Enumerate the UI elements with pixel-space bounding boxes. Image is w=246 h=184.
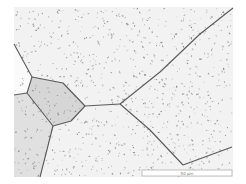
- micrograph-image: 50 µm: [0, 0, 246, 184]
- particle: [110, 111, 112, 112]
- particle: [131, 133, 132, 135]
- scale-bar-label: 50 µm: [181, 171, 194, 176]
- scale-bar: 50 µm: [142, 170, 232, 176]
- particle: [60, 129, 61, 130]
- particle: [69, 155, 70, 157]
- particle: [184, 86, 186, 87]
- particle: [161, 60, 163, 61]
- particle: [205, 27, 206, 28]
- particle: [101, 168, 102, 169]
- particle: [81, 80, 82, 81]
- particle: [118, 96, 119, 98]
- particle: [26, 136, 27, 138]
